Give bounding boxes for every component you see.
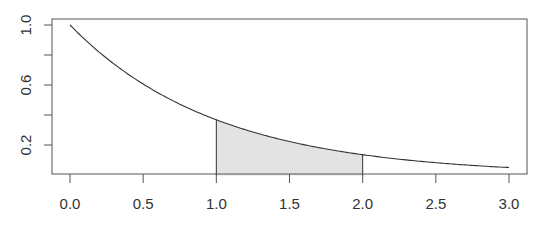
y-tick-label: 0.6 [17,75,34,96]
x-tick-label: 2.0 [352,195,373,212]
x-tick-label: 1.5 [279,195,300,212]
y-tick-label: 1.0 [17,15,34,36]
x-tick-label: 0.5 [133,195,154,212]
x-tick-label: 1.0 [206,195,227,212]
exp-decay-chart: 0.00.51.01.52.02.53.0 1.00.60.2 [0,0,541,227]
x-tick-label: 2.5 [425,195,446,212]
x-tick-label: 0.0 [60,195,81,212]
x-tick-label: 3.0 [499,195,520,212]
y-tick-label: 0.2 [17,135,34,156]
shaded-area-1-to-2 [216,120,362,176]
y-axis: 1.00.60.2 [17,15,52,156]
x-axis: 0.00.51.01.52.02.53.0 [60,174,520,212]
